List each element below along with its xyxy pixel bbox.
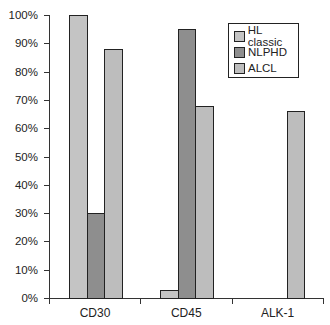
- legend: HL classicNLPHDALCL: [228, 23, 299, 78]
- y-tick-label: 30%: [0, 207, 38, 219]
- y-tick-label: 90%: [0, 37, 38, 49]
- y-tick-label: 80%: [0, 66, 38, 78]
- y-tick-mark: [44, 15, 49, 16]
- y-tick-mark: [44, 157, 49, 158]
- y-tick-mark: [44, 128, 49, 129]
- y-tick-mark: [44, 213, 49, 214]
- legend-swatch: [234, 31, 245, 42]
- y-tick-label: 60%: [0, 122, 38, 134]
- y-tick-label: 70%: [0, 94, 38, 106]
- y-tick-label: 40%: [0, 179, 38, 191]
- x-tick-mark: [323, 298, 324, 304]
- y-tick-mark: [44, 241, 49, 242]
- legend-label: HL classic: [248, 24, 298, 48]
- x-tick-mark: [49, 298, 50, 304]
- y-tick-mark: [44, 72, 49, 73]
- legend-label: ALCL: [248, 62, 277, 74]
- bar-cd30-hl-classic: [69, 15, 88, 299]
- bar-cd45-hl-classic: [160, 290, 179, 299]
- y-tick-mark: [44, 185, 49, 186]
- legend-label: NLPHD: [248, 46, 287, 58]
- x-category-label: ALK-1: [232, 306, 324, 320]
- x-tick-mark: [140, 298, 141, 304]
- y-axis-line: [49, 15, 50, 298]
- x-tick-mark: [232, 298, 233, 304]
- bar-cd30-nlphd: [87, 213, 106, 299]
- legend-swatch: [234, 63, 245, 74]
- y-tick-mark: [44, 100, 49, 101]
- y-tick-label: 50%: [0, 151, 38, 163]
- y-tick-label: 100%: [0, 9, 38, 21]
- y-tick-mark: [44, 43, 49, 44]
- x-category-label: CD30: [49, 306, 141, 320]
- bar-cd30-alcl: [104, 49, 123, 299]
- bar-chart: 0%10%20%30%40%50%60%70%80%90%100% CD30CD…: [0, 0, 330, 325]
- y-tick-label: 10%: [0, 264, 38, 276]
- legend-item: HL classic: [234, 28, 298, 44]
- legend-swatch: [234, 47, 245, 58]
- y-tick-mark: [44, 270, 49, 271]
- y-tick-label: 20%: [0, 235, 38, 247]
- bar-cd45-alcl: [195, 106, 214, 299]
- y-tick-label: 0%: [0, 292, 38, 304]
- x-category-label: CD45: [140, 306, 232, 320]
- legend-item: ALCL: [234, 60, 298, 76]
- bar-cd45-nlphd: [178, 29, 197, 299]
- bar-alk-1-alcl: [287, 111, 306, 299]
